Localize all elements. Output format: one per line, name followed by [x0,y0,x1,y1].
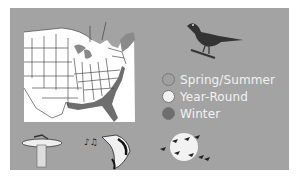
svg-text:♪♫: ♪♫ [84,137,98,147]
legend-item-winter: Winter [162,105,275,122]
legend-item-spring-summer: Spring/Summer [162,71,275,88]
legend-label: Year-Round [180,90,248,104]
migrating-flock-icon [154,133,214,173]
range-map [22,18,137,122]
legend-label: Winter [180,107,220,121]
bird-bath-icon [20,133,64,173]
singing-bird-icon: ♪♫ [84,131,134,175]
bird-silhouette-icon [185,20,245,64]
us-map-graphic [22,18,137,122]
legend-label: Spring/Summer [180,73,275,87]
spring-summer-swatch-icon [162,73,175,86]
legend: Spring/Summer Year-Round Winter [162,71,275,122]
year-round-swatch-icon [162,90,175,103]
winter-swatch-icon [162,107,175,120]
legend-item-year-round: Year-Round [162,88,275,105]
